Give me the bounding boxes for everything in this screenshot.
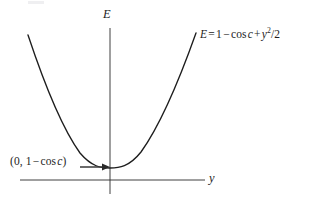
equation-equals: = [207, 28, 216, 40]
equation-cos: cos [231, 28, 247, 40]
annotation-arrowhead [102, 163, 110, 170]
annotation-open: (0, 1 [10, 155, 32, 167]
curve-equation-label: E=1−cos c+y2/2 [200, 27, 280, 40]
annotation-cos: cos [41, 155, 57, 167]
equation-over-two: /2 [271, 28, 280, 40]
vertex-coordinate-annotation: (0, 1−cos c) [10, 156, 66, 168]
equation-minus: − [222, 28, 231, 40]
equation-plus: + [253, 28, 262, 40]
energy-parabola-figure: E y E=1−cos c+y2/2 (0, 1−cos c) [0, 0, 316, 204]
annotation-close: ) [62, 155, 66, 167]
parabola-curve [28, 33, 196, 168]
energy-axis-label: E [103, 8, 111, 21]
y-axis-label: y [209, 172, 215, 185]
annotation-minus: − [32, 155, 41, 167]
